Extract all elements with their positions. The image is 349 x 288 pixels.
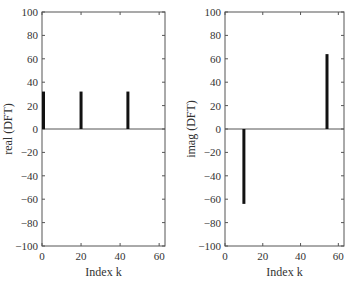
y-tick-label: −60 xyxy=(204,193,222,205)
y-tick-label: 80 xyxy=(210,29,222,41)
x-axis-label: Index k xyxy=(266,265,302,279)
x-tick-label: 20 xyxy=(76,250,88,262)
y-tick-label: 0 xyxy=(216,123,222,135)
y-tick-label: 20 xyxy=(210,100,222,112)
real-plot: −100−80−60−40−200204060801000204060Index… xyxy=(1,6,165,279)
y-tick-label: 80 xyxy=(27,29,39,41)
x-tick-label: 40 xyxy=(295,250,307,262)
imag-plot: −100−80−60−40−200204060801000204060Index… xyxy=(184,6,344,279)
y-axis-label: imag (DFT) xyxy=(184,100,198,158)
y-tick-label: 40 xyxy=(210,76,222,88)
y-tick-label: 60 xyxy=(210,53,222,65)
y-tick-label: −20 xyxy=(21,146,39,158)
y-tick-label: −80 xyxy=(204,217,222,229)
y-axis-label: real (DFT) xyxy=(1,103,15,155)
y-tick-label: −100 xyxy=(15,240,38,252)
x-tick-label: 0 xyxy=(222,250,228,262)
y-tick-label: −20 xyxy=(204,146,222,158)
y-tick-label: −100 xyxy=(198,240,221,252)
y-tick-label: 60 xyxy=(27,53,39,65)
x-tick-label: 0 xyxy=(39,250,45,262)
x-tick-label: 20 xyxy=(257,250,269,262)
dft-figure: −100−80−60−40−200204060801000204060Index… xyxy=(0,0,349,288)
y-tick-label: −40 xyxy=(21,170,39,182)
x-tick-label: 40 xyxy=(115,250,127,262)
y-tick-label: −60 xyxy=(21,193,39,205)
y-tick-label: 20 xyxy=(27,100,39,112)
x-axis-label: Index k xyxy=(85,265,121,279)
x-tick-label: 60 xyxy=(154,250,166,262)
y-tick-label: 0 xyxy=(33,123,39,135)
y-tick-label: −40 xyxy=(204,170,222,182)
y-tick-label: 100 xyxy=(205,6,222,18)
y-tick-label: 100 xyxy=(22,6,39,18)
y-tick-label: −80 xyxy=(21,217,39,229)
x-tick-label: 60 xyxy=(333,250,345,262)
y-tick-label: 40 xyxy=(27,76,39,88)
